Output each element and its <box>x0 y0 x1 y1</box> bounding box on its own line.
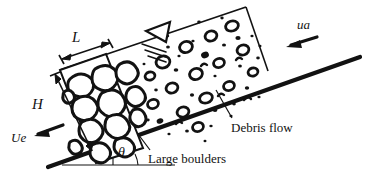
length-label: L <box>72 30 80 45</box>
slope-angle-label: θ <box>118 146 125 160</box>
outflow-velocity-arrow <box>34 125 63 137</box>
large-boulders-fill <box>63 62 146 163</box>
outflow-velocity-label: Ue <box>11 131 26 144</box>
large-boulders-label: Large boulders <box>148 152 226 165</box>
debris-flow-label: Debris flow <box>231 121 293 134</box>
height-label: H <box>32 97 43 112</box>
approach-velocity-label: ua <box>297 18 310 31</box>
flow-downstream-face <box>246 7 268 71</box>
approach-velocity-arrow <box>286 37 317 48</box>
debris-flow-diagram: L H θ Ue ua Debris flow Large boulders <box>0 0 365 177</box>
